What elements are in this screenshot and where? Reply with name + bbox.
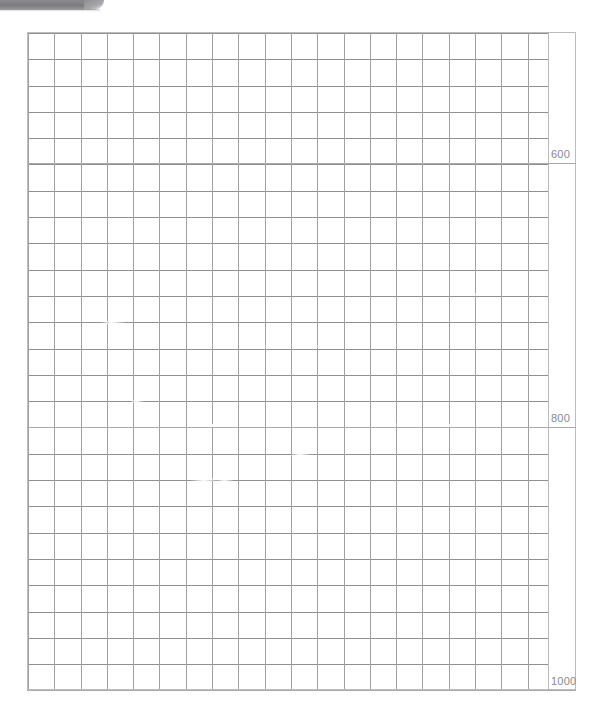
scan-artifact: [462, 293, 482, 296]
scan-artifact: [130, 400, 144, 403]
scan-artifact: [196, 424, 230, 427]
scan-artifact: [396, 424, 414, 427]
scan-artifact: [440, 424, 456, 427]
scan-artifact: [296, 345, 322, 348]
gray-header-bar-shadow: [0, 9, 100, 12]
graph-grid: [27, 32, 576, 690]
scan-artifact: [216, 479, 234, 482]
scan-artifact: [240, 345, 270, 348]
axis-tick-rule: [27, 427, 576, 428]
axis-tick-rule: [27, 163, 576, 164]
scan-artifact: [100, 321, 126, 324]
axis-tick-label: 1000: [551, 676, 576, 687]
axis-tick-rule: [27, 690, 576, 691]
scan-artifact: [320, 346, 342, 349]
scan-artifact: [290, 454, 312, 457]
axis-tick-label: 800: [551, 413, 570, 424]
graph-paper-page: 6008001000: [0, 0, 602, 728]
axis-tick-label: 600: [551, 149, 570, 160]
axis-label-column: [548, 32, 576, 690]
